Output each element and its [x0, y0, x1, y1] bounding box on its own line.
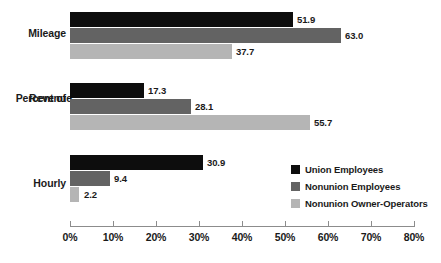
legend-item-label: Nonunion Owner-Operators: [305, 198, 428, 209]
legend-item-label: Nonunion Employees: [305, 181, 400, 192]
bar-percent-of-revenue-nonunion-owner-operators: [70, 115, 310, 130]
x-axis-line: [70, 226, 415, 227]
bar-chart: Mileage 51.9 63.0 37.7 Percent of Revenu…: [0, 0, 441, 263]
legend-swatch-icon: [291, 182, 300, 191]
chart-legend: Union Employees Nonunion Employees Nonun…: [291, 161, 428, 212]
bar-value-mileage-nonunion-employees: 63.0: [345, 30, 363, 41]
bar-mileage-nonunion-owner-operators: [70, 44, 232, 59]
bar-value-hourly-union-employees: 30.9: [207, 157, 225, 168]
legend-item-nonunion-owner-operators: Nonunion Owner-Operators: [291, 195, 428, 211]
x-axis-tick: [199, 221, 200, 226]
x-axis-tick-label: 80%: [389, 231, 439, 243]
category-label-line1: Hourly: [0, 177, 66, 190]
x-axis-tick: [113, 221, 114, 226]
bar-value-hourly-nonunion-owner-operators: 2.2: [84, 189, 97, 200]
legend-swatch-icon: [291, 165, 300, 174]
category-label-percent-of-revenue: Percent of Revenue: [0, 92, 66, 105]
bar-value-mileage-nonunion-owner-operators: 37.7: [236, 46, 254, 57]
bar-hourly-nonunion-employees: [70, 171, 110, 186]
x-axis-tick: [285, 221, 286, 226]
bar-mileage-nonunion-employees: [70, 28, 341, 43]
x-axis-tick: [371, 221, 372, 226]
x-axis-tick: [70, 221, 71, 226]
bar-percent-of-revenue-union-employees: [70, 83, 144, 98]
bar-value-mileage-union-employees: 51.9: [297, 14, 315, 25]
x-axis-tick: [156, 221, 157, 226]
legend-item-label: Union Employees: [305, 164, 383, 175]
category-label-line2: Revenue: [0, 92, 72, 105]
legend-item-union-employees: Union Employees: [291, 161, 428, 177]
bar-mileage-union-employees: [70, 12, 293, 27]
x-axis-tick: [242, 221, 243, 226]
bar-value-hourly-nonunion-employees: 9.4: [114, 173, 127, 184]
bar-percent-of-revenue-nonunion-employees: [70, 99, 191, 114]
category-label-line1: Mileage: [0, 27, 66, 40]
x-axis-tick: [414, 221, 415, 226]
x-axis-tick: [328, 221, 329, 226]
legend-item-nonunion-employees: Nonunion Employees: [291, 178, 428, 194]
bar-value-percent-of-revenue-union-employees: 17.3: [148, 85, 166, 96]
bar-hourly-nonunion-owner-operators: [70, 187, 79, 202]
bar-hourly-union-employees: [70, 155, 203, 170]
legend-swatch-icon: [291, 199, 300, 208]
bar-value-percent-of-revenue-nonunion-employees: 28.1: [195, 101, 213, 112]
bar-value-percent-of-revenue-nonunion-owner-operators: 55.7: [314, 117, 332, 128]
